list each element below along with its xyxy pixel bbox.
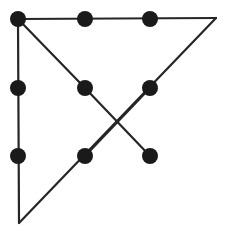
graph-node-lower-center <box>77 148 93 164</box>
figure-canvas <box>0 0 230 237</box>
graph-node-lower-right <box>142 148 158 164</box>
graph-node-middle-center <box>77 80 93 96</box>
graph-node-top-right <box>142 11 158 27</box>
graph-edge-top-horizontal <box>18 18 216 19</box>
graph-edge-left-vertical <box>18 19 19 223</box>
graph-node-top-middle <box>77 11 93 27</box>
graph-node-middle-left <box>10 80 26 96</box>
edge-layer <box>18 18 216 223</box>
graph-node-top-left <box>10 11 26 27</box>
graph-edge-upper-diagonal <box>18 19 85 88</box>
graph-svg <box>0 0 230 237</box>
graph-node-lower-left <box>10 148 26 164</box>
graph-node-middle-right <box>142 80 158 96</box>
